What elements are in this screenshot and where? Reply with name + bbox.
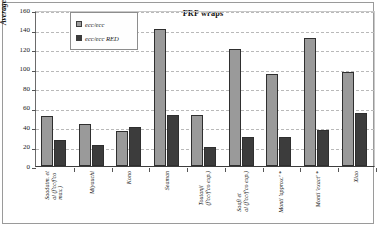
bar-series-b	[279, 137, 291, 166]
chart-frame: FRP wraps Average absolute error (%) 020…	[2, 2, 374, 224]
bar-series-a	[304, 38, 316, 166]
bar-group	[337, 12, 375, 166]
bar-group	[149, 12, 187, 166]
y-axis-tick-label: 140	[4, 27, 30, 34]
y-axis-tick-label: 60	[4, 105, 30, 112]
x-axis-label-cell: Toutanji(f'cc/f'co exp.)	[186, 171, 224, 228]
x-axis-label-cell: Seaman	[148, 171, 186, 228]
x-axis-category-label: Kono	[126, 171, 133, 184]
x-axis-category-label: Saadatm. etal (f'cc/f'comax.)	[44, 171, 64, 200]
bar-series-b	[167, 115, 179, 166]
bar-group	[299, 12, 337, 166]
bar-series-a	[116, 131, 128, 166]
y-axis-tick-label: 160	[4, 8, 30, 15]
legend: ecc/ecc ecc/ecc RED	[70, 12, 138, 50]
legend-item-ecc-ecc: ecc/ecc	[76, 17, 133, 31]
x-axis-label-line: al (f'cc/f'co	[51, 171, 58, 200]
x-axis-category-label: Monti 'approx.' *	[277, 171, 284, 213]
x-axis-label-line: Kono	[126, 171, 133, 184]
x-axis-label-cell: Saafi etal (f'cc/f'co exp.)	[224, 171, 262, 228]
bar-series-b	[204, 147, 216, 166]
x-axis-label-cell: Monti 'exact' *	[299, 171, 337, 228]
bar-series-a	[41, 116, 53, 166]
x-axis-label-cell: Miyauchi	[73, 171, 111, 228]
x-axis-label-cell: Saadatm. etal (f'cc/f'comax.)	[35, 171, 73, 228]
x-axis-label-line: max.)	[57, 171, 64, 200]
x-axis-category-label: Monti 'exact' *	[315, 171, 322, 207]
x-axis-label-line: Saafi et	[236, 171, 243, 212]
legend-swatch-icon-series-a	[76, 21, 82, 27]
x-axis-category-label: Miyauchi	[88, 171, 95, 194]
x-axis-label-line: Xiao	[353, 171, 360, 183]
x-axis-category-label: Xiao	[353, 171, 360, 183]
x-axis-label-cell: Kono	[111, 171, 149, 228]
bar-group	[186, 12, 224, 166]
y-axis-tick-label: 0	[4, 164, 30, 171]
legend-swatch-icon-series-b	[76, 35, 82, 41]
bar-series-b	[92, 145, 104, 166]
x-axis-label-line: Miyauchi	[88, 171, 95, 194]
x-axis-category-label: Seaman	[164, 171, 171, 190]
chart-root: FRP wraps Average absolute error (%) 020…	[0, 0, 378, 228]
bar-group	[261, 12, 299, 166]
x-axis-label-line: Saadatm. et	[44, 171, 51, 200]
legend-item-ecc-ecc-red: ecc/ecc RED	[76, 31, 133, 45]
y-axis-tick-label: 20	[4, 144, 30, 151]
x-axis-category-labels: Saadatm. etal (f'cc/f'comax.)MiyauchiKon…	[35, 171, 375, 228]
bar-series-a	[342, 72, 354, 166]
legend-label-series-a: ecc/ecc	[85, 21, 104, 28]
bar-group	[36, 12, 74, 166]
x-axis-tick	[376, 168, 377, 172]
bar-series-a	[229, 49, 241, 166]
x-axis-label-line: Monti 'approx.' *	[277, 171, 284, 213]
bar-series-b	[54, 140, 66, 166]
x-axis-label-cell: Xiao	[337, 171, 375, 228]
x-axis-label-line: (f'cc/f'co exp.)	[205, 171, 212, 205]
bar-series-a	[79, 124, 91, 166]
bar-series-b	[242, 137, 254, 166]
bar-series-b	[129, 127, 141, 166]
bar-series-a	[191, 115, 203, 166]
y-axis-tick-label: 80	[4, 86, 30, 93]
bar-series-a	[266, 74, 278, 166]
bar-series-b	[317, 130, 329, 166]
y-axis-tick-label: 100	[4, 66, 30, 73]
x-axis-label-line: al (f'cc/f'co exp.)	[243, 171, 250, 212]
legend-label-series-b: ecc/ecc RED	[85, 35, 119, 42]
x-axis-label-line: Monti 'exact' *	[315, 171, 322, 207]
bar-group	[224, 12, 262, 166]
x-axis-category-label: Toutanji(f'cc/f'co exp.)	[198, 171, 211, 205]
bar-series-b	[355, 113, 367, 166]
y-axis-tick	[32, 168, 36, 169]
x-axis-label-cell: Monti 'approx.' *	[262, 171, 300, 228]
x-axis-category-label: Saafi etal (f'cc/f'co exp.)	[236, 171, 249, 212]
bar-series-a	[154, 29, 166, 166]
x-axis-label-line: Seaman	[164, 171, 171, 190]
y-axis-tick-label: 120	[4, 47, 30, 54]
y-axis-tick-label: 40	[4, 125, 30, 132]
